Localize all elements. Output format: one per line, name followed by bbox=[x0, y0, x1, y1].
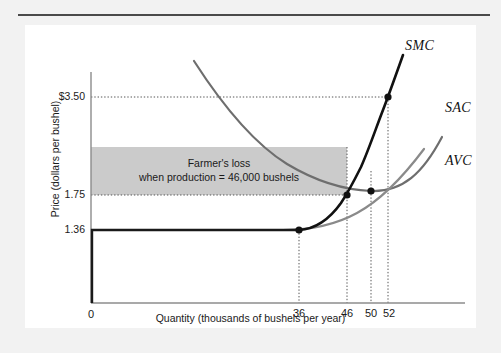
marker-q36 bbox=[295, 226, 302, 233]
marker-q50 bbox=[367, 187, 374, 194]
avc-curve-label: AVC bbox=[445, 153, 472, 169]
price-line bbox=[92, 230, 299, 303]
y-axis-title: Price (dollars per bushel) bbox=[49, 74, 61, 244]
figure-container: $3.50 1.75 1.36 0 36 46 50 52 Price (dol… bbox=[0, 0, 501, 353]
marker-q46 bbox=[343, 191, 350, 198]
smc-curve bbox=[299, 55, 403, 230]
chart-panel: $3.50 1.75 1.36 0 36 46 50 52 Price (dol… bbox=[25, 25, 476, 328]
farmers-loss-label-line1: Farmer's loss bbox=[91, 156, 347, 170]
sac-curve-label: SAC bbox=[445, 100, 471, 116]
farmers-loss-label-line2: when production = 46,000 bushels bbox=[91, 170, 347, 184]
marker-q52 bbox=[384, 93, 391, 100]
top-divider-rule bbox=[18, 14, 490, 16]
smc-curve-label: SMC bbox=[405, 38, 434, 54]
x-axis-title: Quantity (thousands of bushels per year) bbox=[25, 312, 476, 324]
